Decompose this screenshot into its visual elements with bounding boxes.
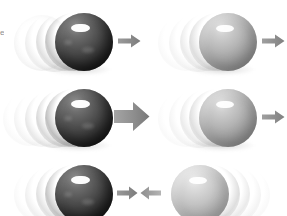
secondary-reflection [82,199,94,205]
panel-row1-left [0,4,143,76]
sphere-stage [144,80,261,152]
panel-row-1 [0,4,287,76]
sphere-stage [0,4,117,76]
secondary-reflection [64,116,72,121]
sphere-stage [144,4,261,76]
dark-sphere [55,13,113,71]
velocity-arrow-row1-left [118,34,141,48]
panel-row2-right [144,80,287,152]
secondary-reflection [82,47,94,53]
momentum-figure: e [0,0,287,216]
specular-highlight [71,100,90,108]
dark-sphere [55,165,113,216]
secondary-reflection [64,40,72,45]
specular-highlight [71,24,90,32]
sphere-stage [166,156,286,216]
dark-sphere [55,89,113,147]
specular-highlight [216,25,234,32]
light-sphere [199,13,257,71]
panel-row-3 [0,156,287,216]
panel-row-2 [0,80,287,152]
panel-row3-right [144,156,287,216]
velocity-arrow-row1-right [262,34,285,48]
sphere-stage [0,80,117,152]
panel-row2-left [0,80,143,152]
velocity-arrow-row2-right [262,110,285,124]
panel-row1-right [144,4,287,76]
secondary-reflection [64,192,72,197]
light-sphere [199,89,257,147]
velocity-arrow-row3-right [140,186,161,200]
motion-trail-5 [3,92,57,146]
secondary-reflection [82,123,94,129]
pale-sphere [171,165,229,216]
velocity-arrow-row3-left [117,186,138,200]
specular-highlight [216,101,234,108]
specular-highlight [189,177,207,184]
sphere-stage [0,156,117,216]
specular-highlight [71,176,90,184]
panel-row3-left [0,156,143,216]
